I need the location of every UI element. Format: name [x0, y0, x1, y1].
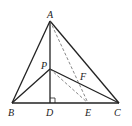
right-angle-marker	[50, 98, 55, 103]
triangle-figure: ABCDEPF	[0, 0, 132, 126]
point-label-d: D	[45, 107, 54, 118]
point-label-a: A	[46, 9, 54, 20]
point-label-p: P	[40, 60, 47, 71]
point-label-c: C	[114, 107, 121, 118]
dashed-segment-AE	[50, 21, 88, 103]
point-label-e: E	[84, 107, 91, 118]
geometry-diagram: ABCDEPF	[0, 0, 132, 126]
segment-PB	[12, 69, 50, 103]
point-label-f: F	[79, 71, 87, 82]
point-label-b: B	[8, 107, 14, 118]
segment-AC	[50, 21, 119, 103]
